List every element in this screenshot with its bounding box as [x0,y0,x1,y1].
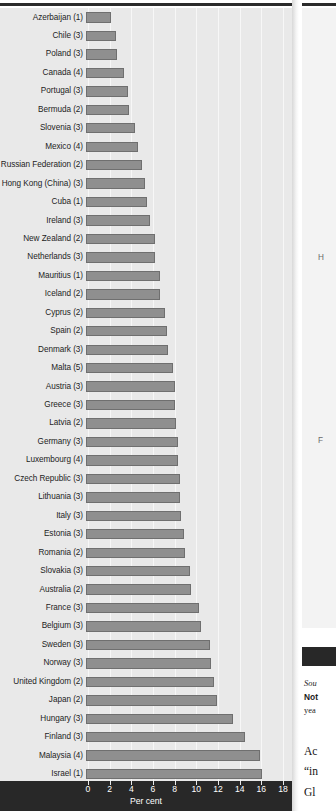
bar-category-label: Romania (2) [0,548,86,558]
bar-category-label: Cuba (1) [0,197,86,207]
bar-track [86,193,292,212]
bar-category-label: Luxembourg (4) [0,455,86,465]
bar-category-label: Sweden (3) [0,640,86,650]
bar-track [86,322,292,341]
chart-row: Finland (3) [0,728,292,747]
bar [86,215,150,225]
bar-track [86,285,292,304]
bar-category-label: Portugal (3) [0,86,86,96]
bar [86,160,142,170]
chart-row: Malta (5) [0,359,292,378]
chart-x-axis: 024681012141618 Per cent [0,781,292,811]
bar-track [86,414,292,433]
chart-row: Spain (2) [0,322,292,341]
chart-row: Austria (3) [0,377,292,396]
bar-category-label: Austria (3) [0,382,86,392]
bar-category-label: Czech Republic (3) [0,474,86,484]
bar [86,455,178,465]
bar [86,363,173,373]
bar-track [86,396,292,415]
bar-category-label: Estonia (3) [0,529,86,539]
bar [86,548,185,558]
bar-track [86,211,292,230]
bar [86,326,167,336]
chart-row: Greece (3) [0,396,292,415]
bar [86,621,201,631]
bar [86,178,145,188]
chart-row: Chile (3) [0,26,292,45]
bar-track [86,82,292,101]
chart-row: New Zealand (2) [0,229,292,248]
bar-track [86,229,292,248]
source-label-fragment: Sou [304,678,317,689]
bar [86,345,168,355]
chart-row: Ireland (3) [0,211,292,230]
bar-category-label: Mexico (4) [0,142,86,152]
bar [86,732,245,742]
bar-category-label: Italy (3) [0,511,86,521]
bar-category-label: Azerbaijan (1) [0,13,86,23]
chart-row: Belgium (3) [0,617,292,636]
x-tick-label: 14 [235,784,245,795]
bar-category-label: Slovakia (3) [0,566,86,576]
bar-category-label: Hungary (3) [0,714,86,724]
chart-row: Iceland (2) [0,285,292,304]
bar [86,197,147,207]
bar-category-label: Russian Federation (2) [0,160,86,170]
chart-row: Latvia (2) [0,414,292,433]
bar-track [86,598,292,617]
x-axis-title: Per cent [0,796,292,807]
bar-category-label: New Zealand (2) [0,234,86,244]
bar [86,271,160,281]
note-line2-fragment: yea [304,705,316,716]
bar-track [86,45,292,64]
bar-track [86,746,292,765]
chart-column: Azerbaijan (1)Chile (3)Poland (3)Canada … [0,0,292,811]
bar-track [86,654,292,673]
bar [86,566,190,576]
bar-category-label: Malta (5) [0,363,86,373]
bar-category-label: Poland (3) [0,49,86,59]
adjacent-page-top-rule [302,3,336,6]
bar [86,105,129,115]
bar-track [86,635,292,654]
x-tick-label: 4 [129,784,134,795]
bar-category-label: Iceland (2) [0,289,86,299]
body-text-fragment-1: Ac [304,744,317,758]
chart-row: Lithuania (3) [0,488,292,507]
bar [86,12,111,22]
bar [86,750,260,760]
bar-track [86,672,292,691]
chart-row: Bermuda (2) [0,100,292,119]
chart-row: Azerbaijan (1) [0,8,292,27]
bar [86,49,117,59]
bar-track [86,580,292,599]
chart-row: Denmark (3) [0,340,292,359]
bar-category-label: France (3) [0,603,86,613]
x-tick-label: 8 [172,784,177,795]
bar-track [86,728,292,747]
bar-category-label: Chile (3) [0,31,86,41]
chart-row: Slovakia (3) [0,562,292,581]
chart-row: Mexico (4) [0,137,292,156]
bar [86,400,175,410]
chart-row: Norway (3) [0,654,292,673]
chart-row: Czech Republic (3) [0,469,292,488]
bar-track [86,137,292,156]
note-label-fragment: Not [304,692,318,703]
bar-track [86,543,292,562]
bar-track [86,63,292,82]
bar [86,584,191,594]
bar-category-label: Lithuania (3) [0,492,86,502]
chart-row: Cuba (1) [0,193,292,212]
bar-category-label: Cyprus (2) [0,308,86,318]
bar [86,418,176,428]
bar-track [86,617,292,636]
bar [86,695,217,705]
chart-row: Japan (2) [0,691,292,710]
chart-row: Hungary (3) [0,709,292,728]
bar-category-label: Ireland (3) [0,216,86,226]
chart-row: Luxembourg (4) [0,451,292,470]
chart-row: Hong Kong (China) (3) [0,174,292,193]
bar [86,511,181,521]
